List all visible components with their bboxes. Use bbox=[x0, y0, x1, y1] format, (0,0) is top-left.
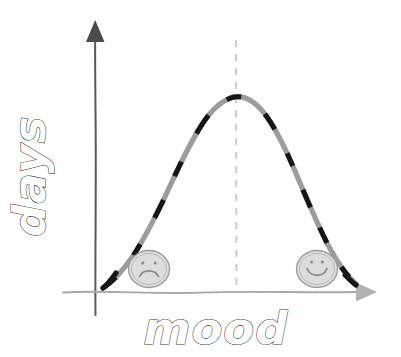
x-axis-label: mood bbox=[144, 302, 289, 355]
chart-canvas: days mood bbox=[0, 0, 401, 357]
y-axis-label-text: days bbox=[3, 115, 56, 236]
happy-face-right-eye bbox=[321, 261, 324, 264]
y-axis-line bbox=[95, 38, 96, 315]
y-axis-label: days bbox=[3, 115, 56, 236]
x-axis-line bbox=[63, 292, 358, 293]
x-axis-label-text: mood bbox=[144, 302, 289, 355]
happy-face-marker bbox=[297, 251, 338, 288]
sad-face-right-eye bbox=[154, 262, 157, 265]
x-axis-arrowhead-icon bbox=[356, 283, 377, 302]
mood-days-bell-curve-chart: days mood bbox=[0, 0, 401, 357]
happy-face-left-eye bbox=[310, 261, 313, 264]
happy-face-circle bbox=[297, 251, 338, 288]
mean-dashed-line bbox=[236, 40, 237, 291]
mean-line-group bbox=[236, 40, 237, 291]
y-axis-arrowhead-icon bbox=[86, 20, 105, 42]
sad-face-left-eye bbox=[141, 262, 144, 265]
sad-face-marker bbox=[129, 251, 170, 288]
sad-face-circle bbox=[129, 251, 170, 288]
